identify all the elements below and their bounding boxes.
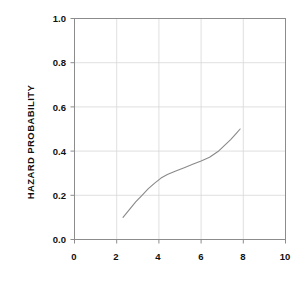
axis-ticks [71, 19, 286, 244]
chart-figure: HAZARD PROBABILITY 1.0 0.8 0.6 0.4 0.2 0… [0, 0, 308, 284]
plot-frame [75, 19, 286, 240]
data-line-hazard-probability [123, 129, 240, 217]
plot-area [0, 0, 308, 284]
gridlines [75, 19, 286, 240]
